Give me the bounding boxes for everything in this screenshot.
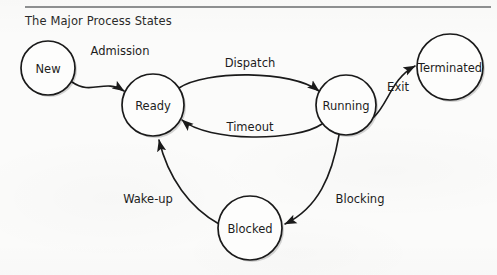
edge-exit: Exit	[374, 66, 415, 117]
state-node-terminated-label: Terminated	[417, 61, 482, 75]
figure-page: The Major Process States Admission Dispa…	[0, 0, 497, 275]
edge-wakeup: Wake-up	[123, 140, 219, 224]
state-node-blocked-label: Blocked	[227, 222, 272, 236]
state-node-running[interactable]: Running	[316, 75, 378, 137]
edge-dispatch: Dispatch	[179, 56, 319, 92]
edge-exit-label: Exit	[387, 80, 409, 94]
edge-wakeup-label: Wake-up	[123, 192, 173, 206]
edge-dispatch-label: Dispatch	[225, 56, 276, 70]
state-node-blocked[interactable]: Blocked	[218, 196, 284, 262]
edge-admission-label: Admission	[91, 44, 150, 58]
edge-blocking-label: Blocking	[336, 192, 385, 206]
state-node-terminated[interactable]: Terminated	[417, 34, 485, 102]
state-node-new[interactable]: New	[21, 41, 77, 97]
edge-wakeup-path	[159, 140, 219, 224]
state-node-running-label: Running	[322, 99, 369, 113]
edge-timeout: Timeout	[182, 120, 322, 138]
edge-admission-path	[72, 82, 124, 91]
state-node-ready-label: Ready	[135, 99, 171, 113]
edge-timeout-label: Timeout	[226, 120, 274, 134]
edge-blocking: Blocking	[285, 135, 384, 224]
state-node-new-label: New	[35, 62, 60, 76]
edge-blocking-path	[285, 135, 339, 224]
state-node-ready[interactable]: Ready	[122, 74, 186, 138]
process-state-diagram: Admission Dispatch Timeout Exit Blocking…	[0, 0, 497, 275]
edge-dispatch-path	[179, 75, 319, 91]
